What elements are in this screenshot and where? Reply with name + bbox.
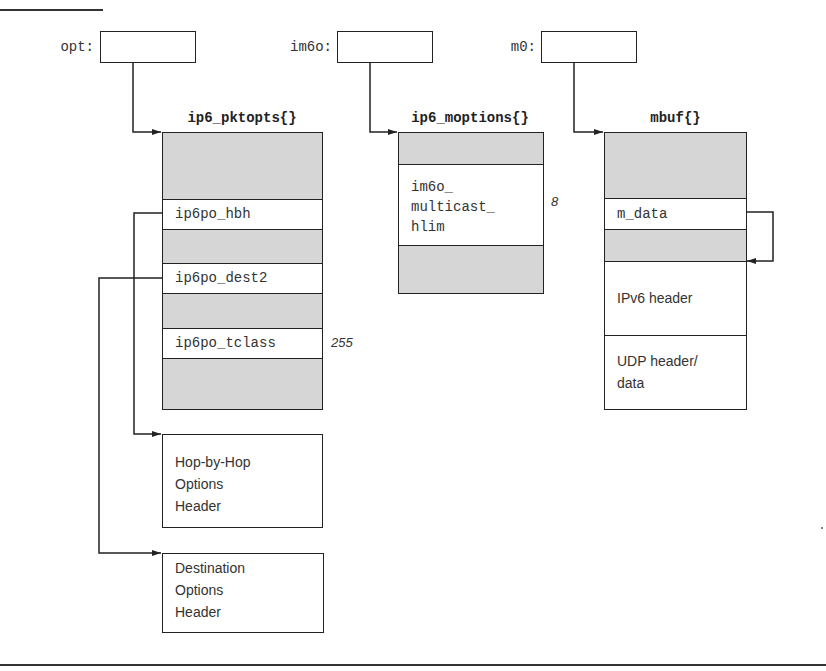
field-name: ip6po_hbh <box>175 205 251 223</box>
opt-label: opt: <box>14 39 94 55</box>
shaded-field <box>163 359 322 409</box>
mbuf-title: mbuf{} <box>604 110 747 126</box>
ip6-moptions-struct: im6o_ multicast_ hlim <box>398 132 544 294</box>
mbuf-struct: m_data IPv6 header UDP header/ data <box>604 132 747 410</box>
shaded-field <box>605 133 746 199</box>
im6o-label: im6o: <box>252 39 332 55</box>
ip6-pktopts-title: ip6_pktopts{} <box>162 110 322 126</box>
shaded-field <box>605 230 746 262</box>
header-label: Destination Options Header <box>175 557 245 623</box>
shaded-field <box>163 294 322 329</box>
destination-options-header: Destination Options Header <box>162 553 324 633</box>
shaded-field <box>163 133 322 200</box>
field-im6o-multicast-hlim: im6o_ multicast_ hlim <box>399 165 543 246</box>
region-label: IPv6 header <box>617 289 693 307</box>
field-ip6po-hbh: ip6po_hbh <box>163 200 322 230</box>
shaded-field <box>163 230 322 264</box>
m0-pointer-box <box>541 31 637 63</box>
ip6po-tclass-value: 255 <box>331 335 353 350</box>
ip6-pktopts-struct: ip6po_hbh ip6po_dest2 ip6po_tclass <box>162 132 323 410</box>
field-name: im6o_ multicast_ hlim <box>411 177 495 237</box>
field-name: ip6po_dest2 <box>175 269 267 287</box>
shaded-field <box>399 133 543 165</box>
field-ip6po-tclass: ip6po_tclass <box>163 329 322 359</box>
header-label: Hop-by-Hop Options Header <box>175 451 250 517</box>
udp-header-data-region: UDP header/ data <box>605 336 746 409</box>
field-ip6po-dest2: ip6po_dest2 <box>163 264 322 294</box>
im6o-pointer-box <box>337 31 433 63</box>
field-name: ip6po_tclass <box>175 334 276 352</box>
field-name: m_data <box>617 205 667 223</box>
m0-label: m0: <box>456 39 536 55</box>
ip6-moptions-title: ip6_moptions{} <box>390 110 550 126</box>
im6o-multicast-hlim-value: 8 <box>551 194 558 209</box>
ipv6-header-region: IPv6 header <box>605 262 746 336</box>
field-m-data: m_data <box>605 199 746 230</box>
shaded-field <box>399 246 543 293</box>
opt-pointer-box <box>100 31 196 63</box>
region-label: UDP header/ data <box>617 350 698 394</box>
hop-by-hop-options-header: Hop-by-Hop Options Header <box>162 434 323 528</box>
